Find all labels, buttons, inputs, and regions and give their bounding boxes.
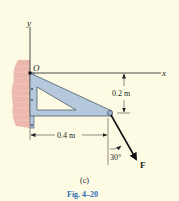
force-label: F (140, 160, 146, 170)
bracket-diagram: y x O 0.2 m 0.4 m F 30° (c) Fig. 4–20 (0, 0, 179, 201)
svg-text:0.2 m: 0.2 m (112, 89, 131, 98)
force-vector: F 30° (110, 115, 146, 170)
y-axis-label: y (26, 18, 31, 28)
svg-text:0.4 m: 0.4 m (57, 131, 76, 140)
dimension-vertical: 0.2 m (112, 74, 131, 113)
angle-label: 30° (110, 153, 121, 162)
subfigure-label: (c) (80, 176, 89, 185)
bracket (29, 72, 113, 129)
figure-caption: Fig. 4–20 (67, 190, 98, 199)
brick-wall (11, 60, 30, 128)
x-axis-label: x (161, 68, 166, 78)
origin-label: O (33, 63, 40, 73)
dimension-horizontal: 0.4 m (30, 118, 108, 165)
